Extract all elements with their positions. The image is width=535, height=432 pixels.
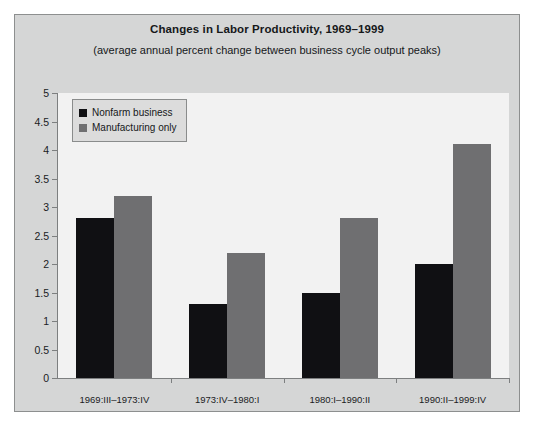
x-axis-tick	[284, 378, 285, 383]
legend-swatch-icon	[79, 109, 87, 117]
x-axis-tick-label: 1980:I–1990:II	[310, 394, 371, 405]
y-axis-tick	[52, 207, 58, 208]
bar	[340, 218, 378, 378]
legend-item-label: Nonfarm business	[92, 107, 173, 118]
legend: Nonfarm business Manufacturing only	[72, 99, 187, 142]
x-axis-tick-label: 1973:IV–1980:I	[195, 394, 259, 405]
chart-title-block: Changes in Labor Productivity, 1969–1999…	[15, 23, 519, 56]
y-axis-tick	[52, 378, 58, 379]
y-axis-tick	[52, 150, 58, 151]
legend-item: Manufacturing only	[79, 120, 177, 135]
x-axis-tick-label: 1969:III–1973:IV	[80, 394, 150, 405]
bar	[189, 304, 227, 378]
x-axis-tick-label: 1990:II–1999:IV	[419, 394, 486, 405]
y-axis-tick	[52, 321, 58, 322]
y-axis-tick-label: 3.5	[34, 173, 49, 185]
bar	[227, 253, 265, 378]
y-axis-tick	[52, 236, 58, 237]
chart-subtitle: (average annual percent change between b…	[15, 44, 519, 56]
legend-item-label: Manufacturing only	[92, 122, 177, 133]
figure: Changes in Labor Productivity, 1969–1999…	[0, 0, 535, 432]
y-axis-tick	[52, 93, 58, 94]
y-axis-tick-label: 0	[43, 372, 49, 384]
bar	[415, 264, 453, 378]
chart-panel: Changes in Labor Productivity, 1969–1999…	[14, 14, 520, 412]
y-axis-tick	[52, 293, 58, 294]
y-axis-tick-label: 4	[43, 144, 49, 156]
y-axis-tick	[52, 179, 58, 180]
y-axis-tick-label: 2	[43, 258, 49, 270]
page-title: Changes in Labor Productivity, 1969–1999	[15, 23, 519, 35]
y-axis-tick-label: 1	[43, 315, 49, 327]
y-axis-tick	[52, 122, 58, 123]
y-axis-tick-label: 3	[43, 201, 49, 213]
legend-item: Nonfarm business	[79, 105, 177, 120]
y-axis-tick-label: 1.5	[34, 287, 49, 299]
y-axis-tick-label: 2.5	[34, 230, 49, 242]
y-axis-tick-label: 0.5	[34, 344, 49, 356]
bar	[302, 293, 340, 379]
bar	[114, 196, 152, 378]
y-axis-tick-label: 5	[43, 87, 49, 99]
x-axis-tick	[396, 378, 397, 383]
y-axis-tick-label: 4.5	[34, 116, 49, 128]
bar	[76, 218, 114, 378]
y-axis-tick	[52, 350, 58, 351]
x-axis-tick	[509, 378, 510, 383]
bar	[453, 144, 491, 378]
legend-swatch-icon	[79, 124, 87, 132]
plot-area: 00.511.522.533.544.55 1969:III–1973:IV19…	[57, 93, 509, 379]
x-axis-tick	[171, 378, 172, 383]
y-axis-tick	[52, 264, 58, 265]
